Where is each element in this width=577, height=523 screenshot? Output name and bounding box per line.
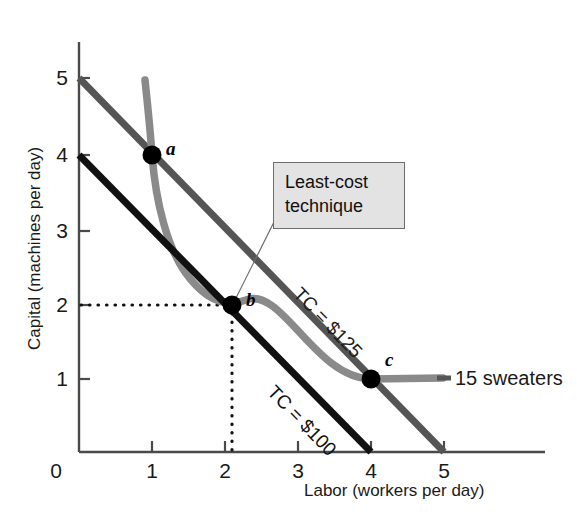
least-cost-technique-callout: Least-cost technique <box>273 162 405 229</box>
isocost-line-125 <box>79 78 444 452</box>
y-tick-label-4: 4 <box>42 144 68 165</box>
point-c-marker <box>362 370 381 389</box>
x-tick-marks <box>152 441 444 452</box>
point-b-label: b <box>246 290 256 309</box>
x-tick-label-4: 4 <box>358 460 384 481</box>
callout-line-1: Least-cost <box>285 171 395 195</box>
x-tick-label-5: 5 <box>431 460 457 481</box>
point-c-label: c <box>385 350 393 369</box>
point-a-marker <box>143 146 162 165</box>
x-axis-title: Labor (workers per day) <box>304 482 484 499</box>
chart-canvas <box>0 0 577 523</box>
y-axis-title: Capital (machines per day) <box>26 147 43 350</box>
point-a-label: a <box>166 139 176 158</box>
isoquant-label: 15 sweaters <box>455 368 563 388</box>
guide-lines <box>81 305 232 452</box>
x-tick-label-2: 2 <box>212 460 238 481</box>
figure-isocost-isoquant: Capital (machines per day) Labor (worker… <box>0 0 577 523</box>
y-tick-marks <box>79 78 90 379</box>
point-b-marker <box>223 296 242 315</box>
x-tick-label-1: 1 <box>139 460 165 481</box>
y-tick-label-1: 1 <box>42 368 68 389</box>
callout-line-2: technique <box>285 195 395 219</box>
y-tick-label-2: 2 <box>42 294 68 315</box>
isoquant-curve-15-sweaters <box>145 80 443 379</box>
x-tick-label-0: 0 <box>43 460 69 481</box>
y-tick-label-5: 5 <box>42 67 68 88</box>
x-tick-label-3: 3 <box>285 460 311 481</box>
y-tick-label-3: 3 <box>42 220 68 241</box>
